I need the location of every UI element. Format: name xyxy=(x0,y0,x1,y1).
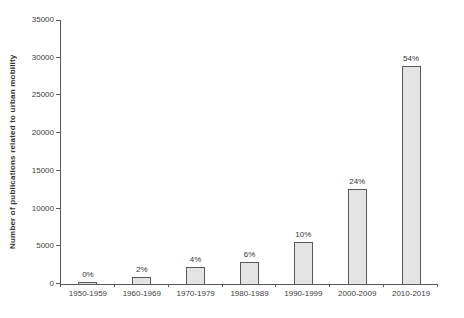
y-tick-label: 10000 xyxy=(12,204,54,214)
y-tick-label: 15000 xyxy=(12,166,54,176)
bars-container: 0%2%4%6%10%24%54% xyxy=(61,20,438,284)
x-axis-tick xyxy=(114,284,115,287)
y-axis-tick xyxy=(56,132,60,133)
x-axis-tick xyxy=(437,284,438,287)
bar xyxy=(348,189,367,284)
bar xyxy=(240,262,259,284)
bar-slot: 54% xyxy=(384,20,438,284)
bar-value-label: 6% xyxy=(223,250,277,259)
x-axis-labels: 1950-19591960-19691970-19791980-19891990… xyxy=(61,289,438,299)
bar-slot: 0% xyxy=(61,20,115,284)
x-tick-label: 2010-2019 xyxy=(384,289,438,299)
bar xyxy=(402,66,421,284)
bar-value-label: 10% xyxy=(276,230,330,239)
bar-value-label: 24% xyxy=(330,177,384,186)
bar-slot: 2% xyxy=(115,20,169,284)
y-tick-label: 5000 xyxy=(12,241,54,251)
x-tick-label: 1990-1999 xyxy=(276,289,330,299)
y-axis-tick xyxy=(56,20,60,21)
x-axis-tick xyxy=(168,284,169,287)
bar-value-label: 54% xyxy=(384,54,438,63)
x-tick-label: 1960-1969 xyxy=(115,289,169,299)
x-axis-tick xyxy=(275,284,276,287)
bar-value-label: 2% xyxy=(115,265,169,274)
x-axis-tick xyxy=(222,284,223,287)
bar xyxy=(132,277,151,284)
x-tick-label: 1970-1979 xyxy=(169,289,223,299)
y-axis-tick xyxy=(56,170,60,171)
bar-slot: 4% xyxy=(169,20,223,284)
bar-slot: 24% xyxy=(330,20,384,284)
y-tick-label: 0 xyxy=(12,279,54,289)
x-axis-tick xyxy=(60,284,61,287)
y-axis-tick xyxy=(56,245,60,246)
y-tick-label: 20000 xyxy=(12,128,54,138)
y-axis-tick xyxy=(56,208,60,209)
y-axis-tick xyxy=(56,94,60,95)
x-axis-tick xyxy=(329,284,330,287)
bar xyxy=(78,282,97,284)
y-tick-label: 30000 xyxy=(12,53,54,63)
x-tick-label: 1950-1959 xyxy=(61,289,115,299)
bar xyxy=(294,242,313,284)
x-tick-label: 2000-2009 xyxy=(330,289,384,299)
plot-area: 0%2%4%6%10%24%54% xyxy=(60,20,438,285)
bar xyxy=(186,267,205,284)
bar-slot: 6% xyxy=(223,20,277,284)
bar-value-label: 4% xyxy=(169,255,223,264)
y-tick-label: 25000 xyxy=(12,90,54,100)
x-axis-tick xyxy=(383,284,384,287)
bar-slot: 10% xyxy=(276,20,330,284)
bar-chart: Number of publications related to urban … xyxy=(0,0,464,318)
y-axis-tick xyxy=(56,57,60,58)
x-tick-label: 1980-1989 xyxy=(223,289,277,299)
y-tick-label: 35000 xyxy=(12,15,54,25)
bar-value-label: 0% xyxy=(61,270,115,279)
